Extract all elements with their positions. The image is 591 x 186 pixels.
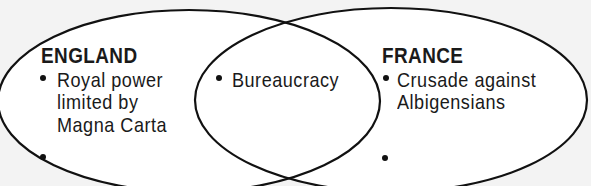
france-item-1-line-2: Albigensians bbox=[397, 91, 506, 114]
england-item-1-line-2: limited by bbox=[57, 91, 138, 114]
venn-diagram: ENGLAND Royal power limited by Magna Car… bbox=[0, 0, 591, 186]
france-bullet-1 bbox=[383, 75, 389, 81]
france-bullet-2-empty bbox=[382, 155, 388, 161]
overlap-bullet-1 bbox=[216, 75, 222, 81]
england-bullet-1 bbox=[40, 75, 46, 81]
england-item-1-line-1: Royal power bbox=[57, 69, 163, 92]
england-item-1-line-3: Magna Carta bbox=[57, 114, 167, 137]
england-title: ENGLAND bbox=[41, 45, 138, 67]
france-item-1-line-1: Crusade against bbox=[397, 69, 536, 92]
england-bullet-2-empty bbox=[40, 154, 46, 160]
overlap-item-1: Bureaucracy bbox=[232, 69, 339, 92]
france-title: FRANCE bbox=[382, 45, 463, 67]
